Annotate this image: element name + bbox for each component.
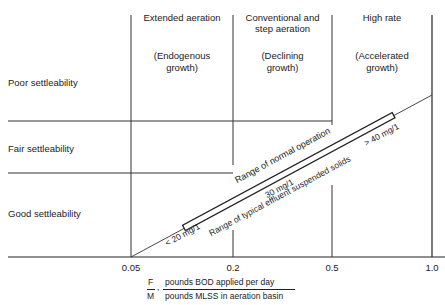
region-conventional-subtitle-1: (Declining (233, 50, 332, 61)
x-tick-0.5: 0.5 (325, 262, 338, 273)
region-extended-aeration-title: Extended aeration (131, 12, 233, 23)
region-high-rate-subtitle-1: (Accelerated (332, 50, 432, 61)
fm-fraction-bar (147, 289, 155, 290)
region-high-rate-title: High rate (332, 12, 432, 23)
region-high-rate-subtitle-2: growth) (332, 62, 432, 73)
region-conventional-title-2: step aeration (233, 23, 332, 34)
fm-numerator: F (148, 277, 153, 287)
region-extended-aeration-subtitle-2: growth) (131, 62, 233, 73)
formula-denominator: pounds MLSS in aeration basin (165, 291, 283, 301)
fair-settleability-label: Fair settleability (8, 143, 74, 154)
fm-separator: , (157, 282, 159, 292)
region-conventional-title-1: Conventional and (233, 12, 332, 23)
region-extended-aeration-subtitle-1: (Endogenous (131, 50, 233, 61)
x-tick-1.0: 1.0 (425, 262, 438, 273)
formula-numerator: pounds BOD applied per day (165, 277, 274, 287)
formula-fraction-bar (163, 289, 295, 290)
poor-settleability-label: Poor settleability (8, 77, 78, 88)
fm-denominator: M (147, 291, 154, 301)
x-tick-0.2: 0.2 (226, 262, 239, 273)
x-tick-0.05: 0.05 (122, 262, 141, 273)
region-conventional-subtitle-2: growth) (233, 62, 332, 73)
good-settleability-label: Good settleability (8, 208, 81, 219)
normal-operation-band (183, 113, 395, 231)
